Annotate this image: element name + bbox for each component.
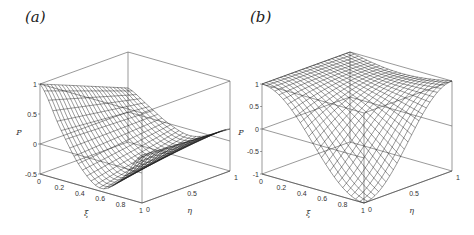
- svg-text:-0.5: -0.5: [25, 171, 37, 178]
- front-edges: [262, 171, 452, 203]
- svg-text:0.5: 0.5: [187, 190, 197, 197]
- svg-text:0: 0: [37, 178, 41, 185]
- surface-mesh: [40, 84, 230, 189]
- xi-axis-label: ξ: [84, 209, 89, 218]
- svg-text:0.4: 0.4: [75, 190, 85, 197]
- svg-text:0.4: 0.4: [297, 190, 307, 197]
- svg-text:0.5: 0.5: [249, 103, 259, 110]
- svg-text:0: 0: [368, 206, 372, 213]
- svg-text:-0.5: -0.5: [247, 148, 259, 155]
- tick-labels: -0.500.5100.20.40.60.8100.51: [25, 81, 238, 215]
- xi-axis-label: ξ: [306, 209, 311, 218]
- svg-text:0.6: 0.6: [317, 195, 327, 202]
- svg-text:-1: -1: [253, 171, 259, 178]
- svg-text:1: 1: [33, 81, 37, 88]
- p-axis-label: P: [15, 128, 22, 137]
- svg-text:0.2: 0.2: [277, 184, 287, 191]
- svg-text:0.8: 0.8: [338, 201, 348, 208]
- surface-plots: -0.500.5100.20.40.60.8100.51ξηP-1-0.500.…: [0, 0, 474, 235]
- svg-text:0: 0: [259, 178, 263, 185]
- front-edges: [40, 171, 230, 203]
- svg-text:1: 1: [234, 174, 238, 181]
- svg-text:1: 1: [361, 207, 365, 214]
- svg-text:0: 0: [146, 206, 150, 213]
- eta-axis-label: η: [187, 206, 192, 215]
- eta-axis-label: η: [409, 206, 414, 215]
- svg-text:0.5: 0.5: [409, 190, 419, 197]
- plot-b: -1-0.500.5100.20.40.60.8100.51ξηP: [237, 52, 460, 218]
- plot-a: -0.500.5100.20.40.60.8100.51ξηP: [15, 52, 238, 218]
- svg-text:1: 1: [139, 207, 143, 214]
- svg-text:0.2: 0.2: [55, 184, 65, 191]
- svg-text:0.8: 0.8: [116, 201, 126, 208]
- svg-text:1: 1: [255, 81, 259, 88]
- p-axis-label: P: [237, 128, 244, 137]
- surface-mesh: [262, 52, 452, 203]
- svg-text:0: 0: [33, 141, 37, 148]
- svg-text:0: 0: [255, 126, 259, 133]
- svg-text:0.5: 0.5: [27, 111, 37, 118]
- svg-text:1: 1: [456, 174, 460, 181]
- svg-text:0.6: 0.6: [95, 195, 105, 202]
